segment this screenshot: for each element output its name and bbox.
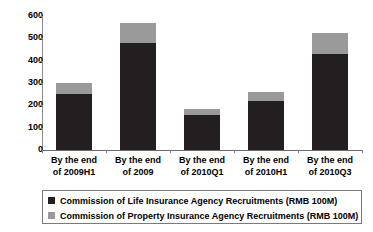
bar-segment-property [312,33,348,54]
x-axis-category-label: By the endof 2010Q1 [166,154,238,178]
category-label-line: By the end [294,154,366,166]
bars-layer [42,0,362,151]
x-axis-category-label: By the endof 2010Q3 [294,154,366,178]
legend-item-property: Commission of Property Insurance Agency … [48,208,361,223]
bar-segment-life [248,101,284,150]
x-axis-tick-mark [362,150,363,153]
category-label-line: of 2009H1 [38,166,110,178]
bar-group [184,109,220,150]
x-axis-tick-mark [234,150,235,153]
category-label-line: of 2009 [102,166,174,178]
stacked-bar-chart: 6005004003002001000 By the endof 2009H1B… [0,0,373,232]
bar-group [248,92,284,151]
category-label-line: of 2010H1 [230,166,302,178]
y-axis-tick-label: 0 [13,145,43,154]
x-axis-category-label: By the endof 2010H1 [230,154,302,178]
legend-swatch-life-icon [48,197,55,204]
bar-segment-life [120,43,156,150]
bar-group [56,83,92,150]
x-axis-tick-mark [42,150,43,153]
x-axis-tick-mark [106,150,107,153]
plot-area: 6005004003002001000 By the endof 2009H1B… [0,0,373,192]
category-label-line: of 2010Q1 [166,166,238,178]
legend-label-property: Commission of Property Insurance Agency … [60,211,358,221]
bar-segment-life [184,115,220,150]
bar-segment-property [56,83,92,94]
chart-legend: Commission of Life Insurance Agency Recr… [42,190,362,224]
bar-segment-property [248,92,284,101]
bar-segment-property [120,23,156,43]
category-label-line: By the end [230,154,302,166]
x-axis-tick-mark [170,150,171,153]
category-label-line: of 2010Q3 [294,166,366,178]
bar-segment-life [56,94,92,150]
category-label-line: By the end [102,154,174,166]
x-axis-tick-mark [298,150,299,153]
bar-group [120,23,156,150]
x-axis-category-labels: By the endof 2009H1By the endof 2009By t… [42,154,362,184]
legend-label-life: Commission of Life Insurance Agency Recr… [60,196,337,206]
bar-group [312,33,348,150]
bar-segment-life [312,54,348,150]
legend-swatch-property-icon [48,212,55,219]
x-axis-category-label: By the endof 2009 [102,154,174,178]
category-label-line: By the end [38,154,110,166]
x-axis-category-label: By the endof 2009H1 [38,154,110,178]
legend-item-life: Commission of Life Insurance Agency Recr… [48,193,361,208]
category-label-line: By the end [166,154,238,166]
